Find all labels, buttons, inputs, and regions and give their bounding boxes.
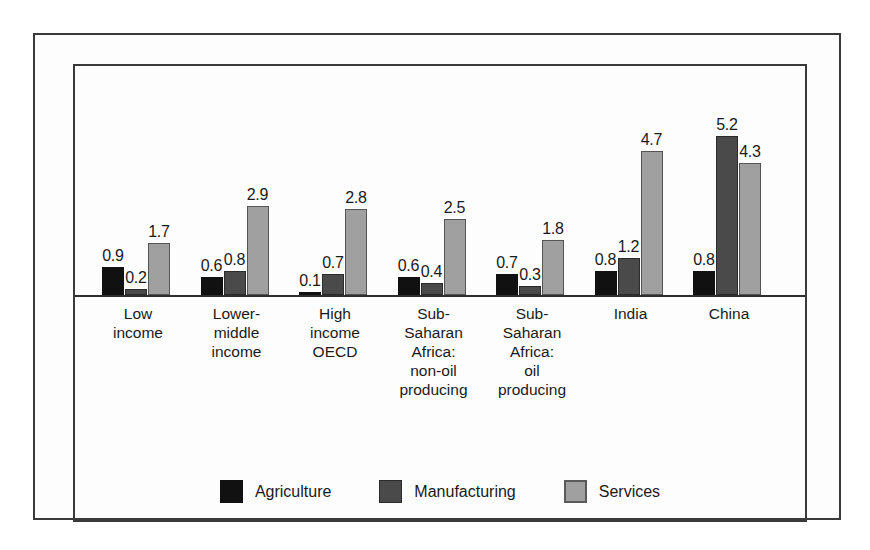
- chart-legend: AgricultureManufacturingServices: [75, 480, 805, 503]
- bar-agriculture: 0.9: [102, 267, 124, 295]
- bar-group: 0.85.24.3: [693, 65, 765, 295]
- bar-value-label: 0.9: [102, 247, 124, 265]
- category-label-line: China: [677, 304, 781, 323]
- bar-services: 4.7: [641, 151, 663, 295]
- bar-services: 2.8: [345, 209, 367, 295]
- category-label-line: oil: [480, 361, 584, 380]
- bar-agriculture: 0.7: [496, 274, 518, 295]
- legend-label: Services: [599, 483, 660, 501]
- category-label-line: income: [86, 323, 190, 342]
- category-label: India: [579, 304, 683, 323]
- bar-value-label: 4.3: [739, 143, 761, 161]
- bar-group: 0.60.82.9: [201, 65, 273, 295]
- bar-value-label: 1.7: [148, 223, 170, 241]
- category-label-line: India: [579, 304, 683, 323]
- category-label-line: OECD: [283, 342, 387, 361]
- bar-group: 0.90.21.7: [102, 65, 174, 295]
- bar-value-label: 0.8: [224, 251, 246, 269]
- legend-swatch-icon: [220, 480, 243, 503]
- bar-agriculture: 0.8: [595, 271, 617, 295]
- bar-value-label: 5.2: [716, 116, 738, 134]
- category-label-line: producing: [382, 380, 486, 399]
- category-label-line: Africa:: [480, 342, 584, 361]
- bar-value-label: 2.5: [444, 199, 466, 217]
- bar-value-label: 0.1: [299, 272, 321, 290]
- bar-value-label: 0.8: [693, 251, 715, 269]
- bar-manufacturing: 0.3: [519, 286, 541, 295]
- bar-agriculture: 0.1: [299, 292, 321, 295]
- category-label-line: producing: [480, 380, 584, 399]
- category-label-line: Low: [86, 304, 190, 323]
- legend-swatch-icon: [564, 480, 587, 503]
- bar-services: 1.8: [542, 240, 564, 295]
- category-label-line: Saharan: [382, 323, 486, 342]
- bar-manufacturing: 5.2: [716, 136, 738, 295]
- category-label: Lower-middleincome: [185, 304, 289, 361]
- bar-value-label: 0.6: [398, 257, 420, 275]
- bar-agriculture: 0.8: [693, 271, 715, 295]
- legend-item[interactable]: Manufacturing: [379, 480, 515, 503]
- bar-set: 0.90.21.7: [102, 65, 174, 295]
- category-label-line: income: [283, 323, 387, 342]
- bar-manufacturing: 0.4: [421, 283, 443, 295]
- bar-value-label: 0.7: [496, 254, 518, 272]
- bar-value-label: 0.3: [519, 266, 541, 284]
- legend-label: Manufacturing: [414, 483, 515, 501]
- category-label-line: High: [283, 304, 387, 323]
- bar-value-label: 1.2: [618, 238, 640, 256]
- bar-group: 0.70.31.8: [496, 65, 568, 295]
- plot-area: 0.90.21.7Lowincome0.60.82.9Lower-middlei…: [75, 66, 805, 520]
- bar-value-label: 0.4: [421, 263, 443, 281]
- plot-frame: 0.90.21.7Lowincome0.60.82.9Lower-middlei…: [73, 64, 807, 522]
- figure-container: 0.90.21.7Lowincome0.60.82.9Lower-middlei…: [33, 33, 841, 520]
- bar-set: 0.60.82.9: [201, 65, 273, 295]
- bar-set: 0.85.24.3: [693, 65, 765, 295]
- legend-label: Agriculture: [255, 483, 331, 501]
- category-label-line: Africa:: [382, 342, 486, 361]
- bar-manufacturing: 0.7: [322, 274, 344, 295]
- bar-services: 4.3: [739, 163, 761, 295]
- category-label: Lowincome: [86, 304, 190, 342]
- legend-item[interactable]: Services: [564, 480, 660, 503]
- category-label-line: middle: [185, 323, 289, 342]
- category-label-line: Sub-: [480, 304, 584, 323]
- bar-value-label: 0.8: [595, 251, 617, 269]
- bar-group: 0.10.72.8: [299, 65, 371, 295]
- bar-value-label: 2.8: [345, 189, 367, 207]
- bar-set: 0.60.42.5: [398, 65, 470, 295]
- bar-manufacturing: 0.8: [224, 271, 246, 295]
- bar-manufacturing: 0.2: [125, 289, 147, 295]
- bar-services: 2.5: [444, 219, 466, 296]
- legend-swatch-icon: [379, 480, 402, 503]
- bar-set: 0.81.24.7: [595, 65, 667, 295]
- category-label-line: Saharan: [480, 323, 584, 342]
- bar-value-label: 0.7: [322, 254, 344, 272]
- legend-item[interactable]: Agriculture: [220, 480, 331, 503]
- category-label: HighincomeOECD: [283, 304, 387, 361]
- bar-value-label: 0.6: [201, 257, 223, 275]
- bar-group: 0.60.42.5: [398, 65, 470, 295]
- bar-services: 2.9: [247, 206, 269, 295]
- bar-value-label: 0.2: [125, 269, 147, 287]
- bar-agriculture: 0.6: [398, 277, 420, 295]
- bar-services: 1.7: [148, 243, 170, 295]
- category-label-line: Sub-: [382, 304, 486, 323]
- category-label-line: non-oil: [382, 361, 486, 380]
- bar-value-label: 2.9: [247, 186, 269, 204]
- category-label: Sub-SaharanAfrica:oilproducing: [480, 304, 584, 399]
- bar-set: 0.10.72.8: [299, 65, 371, 295]
- bar-group: 0.81.24.7: [595, 65, 667, 295]
- category-label-line: Lower-: [185, 304, 289, 323]
- category-label: Sub-SaharanAfrica:non-oilproducing: [382, 304, 486, 399]
- category-label-line: income: [185, 342, 289, 361]
- bar-manufacturing: 1.2: [618, 258, 640, 295]
- bar-agriculture: 0.6: [201, 277, 223, 295]
- bar-value-label: 1.8: [542, 220, 564, 238]
- bar-set: 0.70.31.8: [496, 65, 568, 295]
- x-axis-line: [75, 295, 805, 297]
- bar-value-label: 4.7: [641, 131, 663, 149]
- category-label: China: [677, 304, 781, 323]
